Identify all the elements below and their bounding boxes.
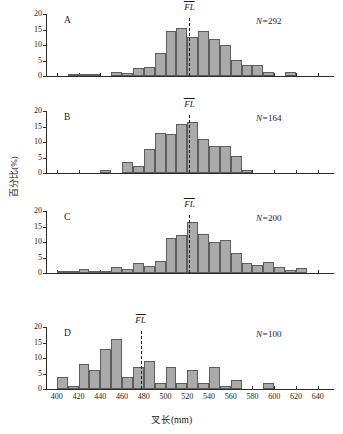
histogram-bar bbox=[111, 72, 122, 76]
x-tick-label: 400 bbox=[51, 392, 63, 401]
histogram-bar bbox=[209, 39, 220, 76]
histogram-bar bbox=[122, 73, 133, 76]
y-tick bbox=[43, 327, 46, 328]
histogram-bar bbox=[252, 265, 263, 273]
y-tick-label: 15 bbox=[34, 339, 42, 347]
histogram-bar bbox=[242, 170, 253, 173]
y-axis-line bbox=[46, 211, 47, 273]
mean-fl-line bbox=[189, 215, 190, 273]
histogram-bar bbox=[68, 74, 79, 76]
y-axis-line bbox=[46, 327, 47, 389]
y-tick-label: 0 bbox=[38, 269, 42, 277]
y-axis-line bbox=[46, 111, 47, 173]
x-axis-line bbox=[46, 389, 334, 390]
histogram-bar bbox=[89, 370, 100, 389]
histogram-bar bbox=[285, 270, 296, 273]
histogram-bar bbox=[176, 28, 187, 76]
x-axis-line bbox=[46, 76, 334, 77]
x-tick-label: 560 bbox=[225, 392, 237, 401]
y-tick-label: 5 bbox=[38, 154, 42, 162]
histogram-bar bbox=[133, 367, 144, 389]
x-tick-label: 460 bbox=[116, 392, 128, 401]
histogram-bar bbox=[100, 271, 111, 273]
histogram-bar bbox=[166, 134, 177, 173]
histogram-bar bbox=[231, 380, 242, 389]
histogram-bar bbox=[231, 253, 242, 273]
histogram-bar bbox=[209, 242, 220, 273]
x-tick-label: 580 bbox=[246, 392, 258, 401]
y-tick-label: 5 bbox=[38, 254, 42, 262]
mean-fl-line bbox=[141, 331, 142, 389]
histogram-bar bbox=[252, 65, 263, 76]
histogram-bar bbox=[111, 267, 122, 273]
y-tick-label: 10 bbox=[34, 354, 42, 362]
y-tick bbox=[43, 127, 46, 128]
histogram-bar bbox=[166, 238, 177, 273]
histogram-bar bbox=[155, 133, 166, 173]
y-tick-label: 20 bbox=[34, 207, 42, 215]
y-tick bbox=[43, 358, 46, 359]
plot-area-d: 0510152040042044046048050052054056058060… bbox=[46, 327, 334, 389]
histogram-bar bbox=[133, 68, 144, 76]
x-tick bbox=[296, 73, 297, 76]
x-tick bbox=[296, 386, 297, 389]
mean-fl-label: FL bbox=[135, 314, 146, 325]
histogram-bar bbox=[209, 146, 220, 173]
x-tick bbox=[274, 386, 275, 389]
histogram-bar bbox=[57, 377, 68, 389]
x-tick-label: 540 bbox=[203, 392, 215, 401]
y-tick-label: 10 bbox=[34, 238, 42, 246]
y-tick-label: 0 bbox=[38, 72, 42, 80]
histogram-bar bbox=[263, 383, 274, 389]
histogram-bar bbox=[176, 235, 187, 273]
x-tick-label: 420 bbox=[73, 392, 85, 401]
histogram-bar bbox=[198, 31, 209, 76]
histogram-bar bbox=[144, 361, 155, 389]
x-tick-label: 480 bbox=[138, 392, 150, 401]
x-tick bbox=[318, 386, 319, 389]
y-tick-label: 0 bbox=[38, 385, 42, 393]
histogram-bar bbox=[274, 267, 285, 273]
histogram-bar bbox=[263, 262, 274, 273]
histogram-bar bbox=[242, 65, 253, 76]
histogram-bar bbox=[263, 72, 274, 76]
x-tick-label: 520 bbox=[181, 392, 193, 401]
histogram-bar bbox=[133, 263, 144, 273]
x-tick bbox=[318, 73, 319, 76]
mean-fl-line bbox=[189, 18, 190, 76]
histogram-bar bbox=[176, 124, 187, 173]
x-tick-label: 600 bbox=[268, 392, 280, 401]
x-axis-label: 叉长(mm) bbox=[0, 412, 343, 426]
x-tick-label: 640 bbox=[312, 392, 324, 401]
histogram-bar bbox=[57, 271, 68, 273]
histogram-bar bbox=[285, 72, 296, 76]
y-tick-label: 10 bbox=[34, 138, 42, 146]
histogram-bar bbox=[100, 349, 111, 389]
x-tick bbox=[296, 170, 297, 173]
histogram-bar bbox=[133, 166, 144, 173]
histogram-bar bbox=[176, 383, 187, 389]
histogram-bar bbox=[155, 53, 166, 76]
histogram-bar bbox=[89, 271, 100, 273]
histogram-bar bbox=[242, 263, 253, 273]
x-tick bbox=[274, 73, 275, 76]
y-tick-label: 15 bbox=[34, 26, 42, 34]
y-tick-label: 5 bbox=[38, 57, 42, 65]
histogram-bar bbox=[68, 386, 79, 389]
x-tick-label: 500 bbox=[160, 392, 172, 401]
histogram-bar bbox=[231, 156, 242, 173]
histogram-bar bbox=[187, 370, 198, 389]
y-tick bbox=[43, 258, 46, 259]
y-tick bbox=[43, 374, 46, 375]
mean-fl-label: FL bbox=[184, 1, 195, 12]
histogram-bar bbox=[144, 67, 155, 76]
histogram-bar bbox=[198, 139, 209, 173]
x-tick bbox=[274, 170, 275, 173]
y-tick-label: 10 bbox=[34, 41, 42, 49]
mean-fl-label: FL bbox=[184, 98, 195, 109]
histogram-bar bbox=[122, 269, 133, 273]
y-tick-label: 20 bbox=[34, 107, 42, 115]
x-tick bbox=[318, 170, 319, 173]
histogram-bar bbox=[79, 269, 90, 273]
histogram-bar bbox=[144, 149, 155, 173]
